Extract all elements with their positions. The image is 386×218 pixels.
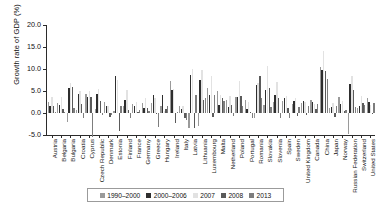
legend-label: 2000–2006 — [154, 192, 187, 199]
legend-label: 2007 — [200, 192, 215, 199]
x-axis-label-cell: Latvia — [188, 139, 197, 187]
x-axis-label-cell: Portugal — [244, 139, 253, 187]
bar — [211, 76, 212, 113]
legend-item[interactable]: 1990–2000 — [100, 192, 141, 199]
x-axis-label-cell: Romania — [253, 139, 262, 187]
gdp-growth-bar-chart: Growth rate of GDP (%) -5.00.05.010.015.… — [0, 0, 386, 218]
y-axis-title: Growth rate of GDP (%) — [12, 0, 21, 105]
x-tick-mark — [117, 135, 118, 138]
x-tick-mark — [249, 135, 250, 138]
x-axis-label-cell: Croatia — [75, 139, 84, 187]
x-axis-label-cell: Slovenia — [272, 139, 281, 187]
bar — [194, 113, 195, 128]
bar-group — [225, 25, 234, 135]
x-tick-mark — [230, 135, 231, 138]
x-axis-labels: AustriaBelgariaBulgariaCroatiaCyprusCzec… — [47, 139, 375, 187]
x-tick-mark — [286, 135, 287, 138]
x-axis-label-cell: Japan — [328, 139, 337, 187]
bar-group — [366, 25, 375, 135]
x-axis-label-cell: United Kingdom — [300, 139, 309, 187]
bar-group — [291, 25, 300, 135]
legend-swatch — [221, 193, 226, 198]
bar-group — [94, 25, 103, 135]
chart-legend: 1990–20002000–2006200720082013 — [87, 188, 284, 202]
bar-group — [328, 25, 337, 135]
bar-group — [66, 25, 75, 135]
x-tick-mark — [108, 135, 109, 138]
x-tick-mark — [333, 135, 334, 138]
legend-label: 2008 — [228, 192, 243, 199]
bar-group — [188, 25, 197, 135]
bar — [119, 113, 120, 131]
bar-group — [113, 25, 122, 135]
x-axis-label-cell: Cyprus — [85, 139, 94, 187]
bar-group — [197, 25, 206, 135]
x-tick-mark — [267, 135, 268, 138]
bar — [182, 106, 183, 113]
x-axis-label-cell: Germany — [141, 139, 150, 187]
y-tick-label: -5.0 — [29, 130, 41, 139]
bar — [173, 89, 174, 113]
x-axis-label-cell: Spain — [281, 139, 290, 187]
bar — [192, 69, 193, 113]
x-axis-label-cell: Bulgaria — [66, 139, 75, 187]
bar-group — [235, 25, 244, 135]
legend-item[interactable]: 2000–2006 — [146, 192, 187, 199]
bar — [295, 98, 296, 113]
x-tick-mark — [183, 135, 184, 138]
legend-item[interactable]: 2013 — [249, 192, 271, 199]
bar-group — [150, 25, 159, 135]
bar — [348, 113, 349, 134]
y-tick-label: 15.0 — [27, 42, 41, 51]
legend-item[interactable]: 2008 — [221, 192, 243, 199]
bar — [370, 105, 371, 113]
x-tick-mark — [99, 135, 100, 138]
bar-group — [347, 25, 356, 135]
x-axis-label-cell: Netherland — [225, 139, 234, 187]
bar — [100, 101, 101, 113]
bar — [334, 113, 335, 117]
x-tick-mark — [258, 135, 259, 138]
x-tick-mark — [80, 135, 81, 138]
x-axis-label-cell: Sweden — [291, 139, 300, 187]
x-axis-label-cell: United States — [366, 139, 375, 187]
x-tick-mark — [239, 135, 240, 138]
bar — [67, 113, 68, 122]
x-tick-mark — [361, 135, 362, 138]
legend-swatch — [193, 193, 198, 198]
legend-item[interactable]: 2007 — [193, 192, 215, 199]
x-tick-mark — [342, 135, 343, 138]
bar — [81, 104, 82, 113]
x-tick-mark — [220, 135, 221, 138]
bar — [332, 103, 333, 113]
bar-group — [338, 25, 347, 135]
legend-label: 2013 — [257, 192, 272, 199]
bar — [198, 113, 199, 126]
x-axis-label-cell: Malta — [216, 139, 225, 187]
x-axis-label-cell: Estonia — [113, 139, 122, 187]
bar — [231, 105, 232, 113]
x-axis-label-cell: Slovakia — [263, 139, 272, 187]
y-tick-label: 0.0 — [31, 108, 41, 117]
x-tick-mark — [155, 135, 156, 138]
x-axis-label-cell: Russian Federation — [347, 139, 356, 187]
x-axis-label-cell: France — [131, 139, 140, 187]
bar-group — [263, 25, 272, 135]
x-axis-label-cell: Greece — [150, 139, 159, 187]
bar-group — [178, 25, 187, 135]
bar-group — [300, 25, 309, 135]
x-tick-mark — [352, 135, 353, 138]
x-tick-mark — [277, 135, 278, 138]
bar — [154, 98, 155, 113]
bar — [373, 103, 374, 113]
bar — [372, 113, 373, 114]
bar — [297, 113, 298, 116]
legend-swatch — [100, 193, 105, 198]
legend-swatch — [249, 193, 254, 198]
x-axis-label-cell: Italy — [178, 139, 187, 187]
bar-group — [310, 25, 319, 135]
x-axis-label-cell: Ireland — [169, 139, 178, 187]
x-axis-label-cell: Lithuania — [197, 139, 206, 187]
x-tick-mark — [127, 135, 128, 138]
legend-swatch — [146, 193, 151, 198]
